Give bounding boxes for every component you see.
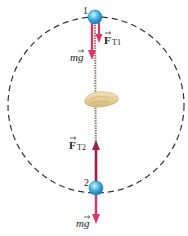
circular-motion-diagram: 1 2 F T1 mg F T2 mg bbox=[0, 0, 188, 236]
svg-text:F: F bbox=[104, 34, 111, 46]
svg-text:mg: mg bbox=[76, 217, 90, 229]
position-1-label: 1 bbox=[83, 5, 88, 16]
ball-position-1 bbox=[88, 10, 102, 24]
ball-position-2 bbox=[89, 181, 103, 195]
weight-arrow-bottom bbox=[92, 195, 100, 224]
tension-arrow-bottom bbox=[92, 140, 100, 181]
weight-bottom-label: mg bbox=[76, 216, 90, 230]
tension-bottom-label: F T2 bbox=[69, 137, 86, 153]
svg-text:T1: T1 bbox=[112, 38, 121, 47]
svg-text:T2: T2 bbox=[77, 143, 86, 152]
svg-text:F: F bbox=[69, 139, 76, 151]
tension-top-label: F T1 bbox=[104, 32, 121, 48]
tension-arrow-top bbox=[96, 22, 103, 43]
svg-text:mg: mg bbox=[70, 51, 84, 63]
position-2-label: 2 bbox=[84, 177, 89, 188]
weight-top-label: mg bbox=[70, 50, 84, 64]
hand-icon bbox=[85, 92, 119, 107]
